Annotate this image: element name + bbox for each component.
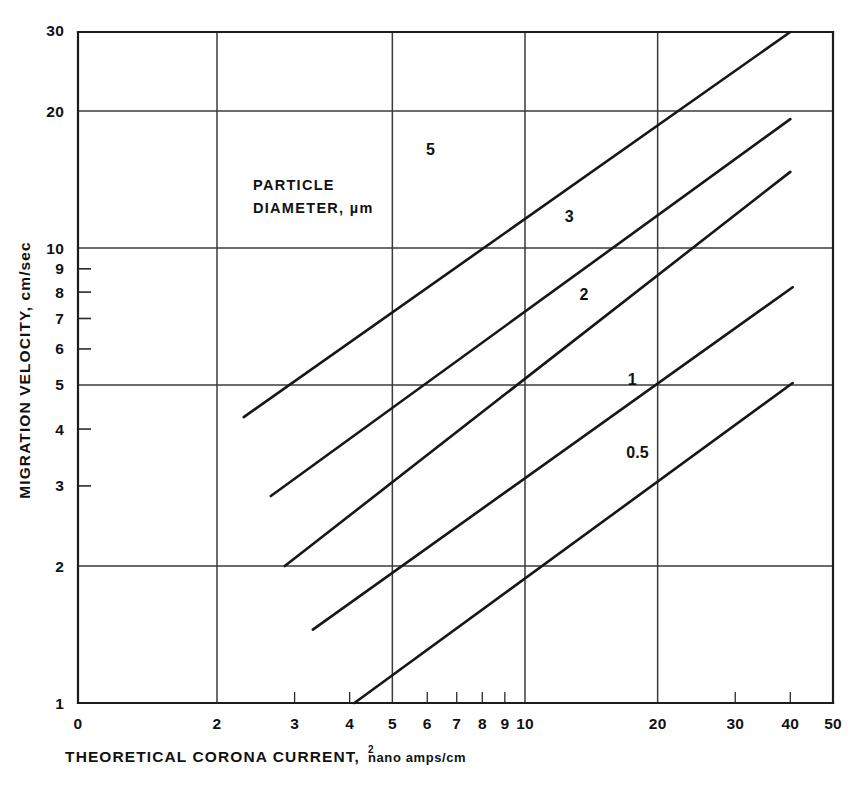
svg-text:DIAMETER, µm: DIAMETER, µm bbox=[253, 200, 374, 216]
ticks-group bbox=[78, 269, 790, 703]
x-tick-label: 5 bbox=[388, 715, 397, 732]
series-label-3: 3 bbox=[565, 208, 574, 225]
series-line-3 bbox=[271, 119, 790, 496]
svg-text:PARTICLE: PARTICLE bbox=[253, 177, 335, 193]
svg-text:nano amps/cm: nano amps/cm bbox=[368, 750, 466, 765]
svg-text:2: 2 bbox=[368, 744, 374, 755]
x-tick-labels: 0234567891020304050 bbox=[74, 715, 842, 732]
y-tick-label: 7 bbox=[55, 310, 64, 327]
y-tick-labels: 123456789102030 bbox=[46, 22, 64, 711]
y-tick-label: 8 bbox=[55, 284, 64, 301]
y-tick-label: 3 bbox=[55, 477, 64, 494]
x-tick-label: 40 bbox=[781, 715, 799, 732]
y-tick-label: 9 bbox=[55, 260, 64, 277]
x-axis-title: THEORETICAL CORONA CURRENT, nano amps/cm… bbox=[65, 744, 466, 765]
curves-group bbox=[244, 32, 793, 703]
x-tick-label: 50 bbox=[824, 715, 842, 732]
x-tick-label: 0 bbox=[74, 715, 83, 732]
series-line-2 bbox=[285, 172, 791, 566]
log-log-chart: 0234567891020304050 123456789102030 5321… bbox=[0, 0, 863, 787]
series-label-2: 2 bbox=[579, 286, 588, 303]
y-tick-label: 6 bbox=[55, 340, 64, 357]
series-line-5 bbox=[244, 32, 791, 417]
series-label-1: 1 bbox=[628, 371, 637, 388]
x-tick-label: 7 bbox=[452, 715, 461, 732]
y-tick-label: 4 bbox=[55, 421, 64, 438]
x-tick-label: 8 bbox=[478, 715, 487, 732]
gridlines-group bbox=[78, 32, 833, 703]
y-tick-label: 5 bbox=[55, 376, 64, 393]
x-tick-label: 3 bbox=[290, 715, 299, 732]
particle-diameter-annotation: PARTICLE DIAMETER, µm bbox=[253, 177, 374, 216]
y-tick-label: 1 bbox=[55, 695, 64, 712]
x-tick-label: 30 bbox=[726, 715, 744, 732]
y-tick-label: 2 bbox=[55, 558, 64, 575]
chart-figure: 0234567891020304050 123456789102030 5321… bbox=[0, 0, 863, 787]
series-line-0-5 bbox=[354, 383, 792, 703]
x-tick-label: 2 bbox=[213, 715, 222, 732]
y-tick-label: 10 bbox=[46, 240, 64, 257]
series-label-0-5: 0.5 bbox=[626, 444, 648, 461]
y-tick-label: 20 bbox=[46, 103, 64, 120]
series-line-1 bbox=[313, 287, 793, 629]
x-tick-label: 4 bbox=[345, 715, 354, 732]
x-tick-label: 20 bbox=[649, 715, 667, 732]
y-tick-label: 30 bbox=[46, 22, 64, 39]
x-tick-label: 9 bbox=[500, 715, 509, 732]
svg-text:THEORETICAL CORONA CURRENT,: THEORETICAL CORONA CURRENT, bbox=[65, 748, 360, 765]
y-axis-title: MIGRATION VELOCITY, cm/sec bbox=[16, 241, 33, 498]
plot-frame bbox=[78, 32, 833, 703]
x-tick-label: 6 bbox=[423, 715, 432, 732]
series-label-5: 5 bbox=[426, 141, 435, 158]
x-tick-label: 10 bbox=[516, 715, 534, 732]
